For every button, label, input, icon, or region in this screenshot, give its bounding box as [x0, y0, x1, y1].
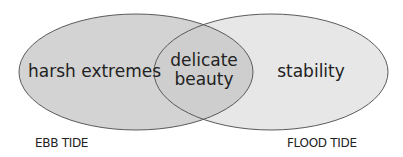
ebb-tide-caption: EBB TIDE — [35, 136, 88, 150]
harsh-extremes-label: harsh extremes — [28, 61, 161, 81]
venn-diagram: harsh extremes delicate beauty stability… — [0, 0, 403, 157]
beauty-label: beauty — [174, 69, 233, 89]
delicate-label: delicate — [170, 50, 238, 70]
stability-label: stability — [277, 61, 345, 81]
flood-tide-caption: FLOOD TIDE — [287, 136, 357, 150]
